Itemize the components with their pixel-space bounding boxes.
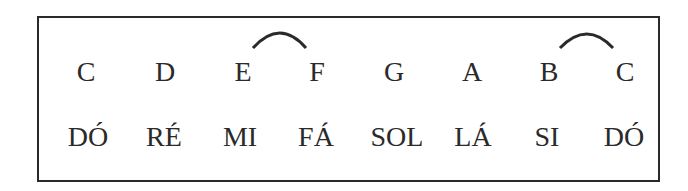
solfege-note: SI: [535, 121, 560, 153]
letter-note: C: [616, 56, 635, 88]
solfege-note: FÁ: [298, 121, 334, 153]
letter-note: D: [155, 56, 175, 88]
letter-note: G: [384, 56, 404, 88]
letter-note: F: [309, 56, 325, 88]
letter-note: A: [462, 56, 482, 88]
semitone-arcs: [0, 0, 688, 191]
solfege-note: DÓ: [604, 121, 644, 153]
letter-note: B: [540, 56, 559, 88]
solfege-note: DÓ: [68, 121, 108, 153]
solfege-note: MI: [223, 121, 257, 153]
semitone-arc-e-f: [253, 33, 306, 48]
letter-note: E: [234, 56, 251, 88]
semitone-arc-b-c: [560, 34, 613, 48]
letter-note: C: [77, 56, 96, 88]
solfege-note: LÁ: [454, 121, 491, 153]
solfege-note: SOL: [371, 121, 424, 153]
solfege-note: RÉ: [146, 121, 182, 153]
